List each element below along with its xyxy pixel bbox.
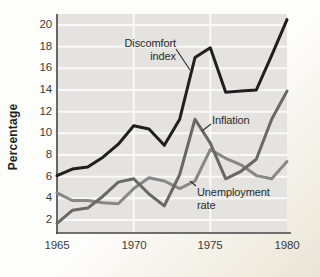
- y-tick-label: 4: [0, 191, 52, 203]
- y-tick-label: 6: [0, 170, 52, 182]
- series-label-line: rate: [197, 199, 216, 211]
- series-label-line: Inflation: [212, 114, 250, 126]
- x-tick-label: 1965: [37, 239, 77, 251]
- x-tick-label: 1970: [114, 239, 154, 251]
- y-tick-label: 12: [0, 105, 52, 117]
- y-tick-label: 20: [0, 18, 52, 30]
- series-label-line: index: [150, 50, 176, 62]
- series-label-unemployment-rate: Unemployment rate: [197, 186, 270, 211]
- misery-index-line-chart: Percentage Discomfort index Inflation Un…: [0, 0, 303, 277]
- series-label-line: Unemployment: [197, 186, 270, 198]
- y-tick-label: 10: [0, 126, 52, 138]
- x-tick-label: 1980: [267, 239, 303, 251]
- y-tick-label: 18: [0, 40, 52, 52]
- y-tick-label: 14: [0, 83, 52, 95]
- series-label-inflation: Inflation: [212, 114, 250, 127]
- series-label-discomfort-index: Discomfort index: [104, 37, 176, 62]
- y-tick-label: 2: [0, 213, 52, 225]
- series-label-line: Discomfort: [124, 37, 176, 49]
- y-tick-label: 16: [0, 61, 52, 73]
- x-tick-label: 1975: [190, 239, 230, 251]
- y-tick-label: 8: [0, 148, 52, 160]
